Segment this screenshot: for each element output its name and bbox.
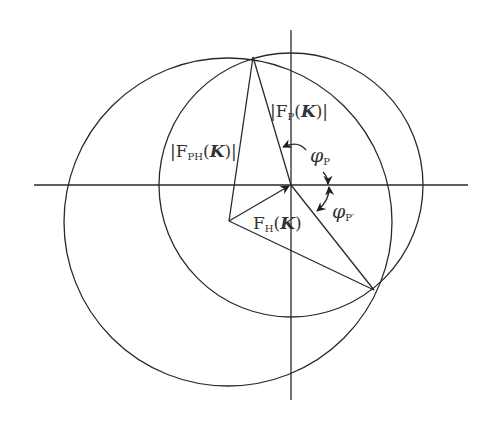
label-phi-p-prime: φP′ bbox=[332, 200, 355, 223]
svg-text:FH(K): FH(K) bbox=[253, 213, 302, 234]
label-fp: |FP(K)| bbox=[270, 101, 328, 122]
svg-text:φP: φP bbox=[310, 144, 330, 167]
label-phi-p: φP bbox=[310, 144, 330, 167]
svg-text:|FP(K)|: |FP(K)| bbox=[270, 101, 328, 122]
vector-fp bbox=[253, 57, 291, 185]
svg-text:|FPH(K)|: |FPH(K)| bbox=[170, 141, 237, 162]
phi-p-prime-arrow bbox=[317, 187, 329, 211]
label-fh: FH(K) bbox=[253, 213, 302, 234]
phi-p-arrow bbox=[283, 144, 306, 150]
circle-fph bbox=[64, 58, 392, 386]
phi-p-axis-arrow bbox=[323, 172, 328, 184]
harker-diagram: |FP(K)| |FPH(K)| FH(K) φP φP′ bbox=[0, 0, 492, 421]
label-fph: |FPH(K)| bbox=[170, 141, 237, 162]
svg-text:φP′: φP′ bbox=[332, 200, 355, 223]
vector-fph bbox=[229, 57, 253, 221]
